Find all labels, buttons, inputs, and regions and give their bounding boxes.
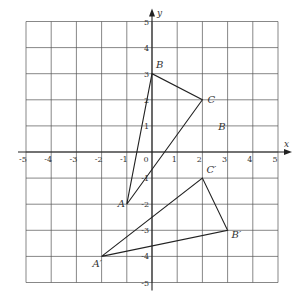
x-tick-label: -4: [44, 155, 52, 164]
axes: xy: [18, 8, 292, 291]
vertex-label: A: [117, 198, 125, 209]
y-tick-label: -3: [141, 226, 149, 235]
grid-canvas: xy -5-4-3-2-101234554321-1-2-3-4-5 ABCA′…: [0, 0, 297, 304]
x-axis-label: x: [284, 139, 289, 149]
y-tick-label: -4: [141, 252, 149, 261]
y-tick-label: -5: [141, 279, 149, 288]
y-axis-arrow-icon: [149, 9, 155, 17]
x-tick-label: 0: [143, 155, 148, 164]
x-tick-label: 4: [247, 155, 252, 164]
y-tick-label: 5: [144, 18, 149, 27]
annotation-label: B: [217, 121, 225, 132]
x-axis-arrow-icon: [284, 149, 292, 155]
x-tick-label: 5: [272, 155, 277, 164]
triangle-abc: [127, 74, 203, 205]
y-tick-label: 4: [144, 44, 149, 53]
x-tick-label: 1: [172, 155, 177, 164]
x-tick-label: 2: [197, 155, 202, 164]
point-labels: ABCA′B′C′B: [92, 59, 242, 270]
y-tick-label: 3: [144, 70, 149, 79]
vertex-label: B: [155, 59, 163, 70]
vertex-label: B′: [231, 229, 242, 240]
vertex-label: C′: [206, 164, 217, 175]
y-tick-label: 1: [144, 122, 149, 131]
triangle-a-primeb-primec-prime: [102, 178, 228, 256]
x-tick-label: -5: [19, 155, 27, 164]
x-tick-label: -3: [70, 155, 78, 164]
x-tick-label: -2: [95, 155, 103, 164]
vertex-label: C: [207, 94, 215, 105]
vertex-label: A′: [92, 258, 103, 269]
y-tick-label: -2: [141, 200, 149, 209]
coordinate-grid-diagram: xy -5-4-3-2-101234554321-1-2-3-4-5 ABCA′…: [0, 0, 297, 304]
y-axis-label: y: [156, 8, 163, 18]
x-tick-label: 3: [222, 155, 227, 164]
x-tick-label: -1: [120, 155, 128, 164]
